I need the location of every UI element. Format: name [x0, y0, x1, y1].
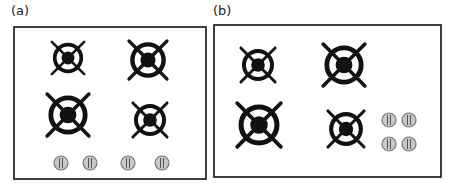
control-knob-icon: [382, 137, 396, 151]
cooktop-panel-a: [14, 27, 206, 179]
control-knob-icon: [402, 113, 416, 127]
control-knob-icon: [121, 156, 135, 170]
cooktop-diagram: [0, 0, 451, 186]
burner-icon: [133, 103, 167, 137]
burner-icon: [328, 111, 364, 147]
burner-icon: [129, 41, 167, 79]
control-knob-icon: [83, 156, 97, 170]
burner-icon: [47, 94, 89, 136]
burner-icon: [52, 42, 84, 74]
control-knob-icon: [402, 137, 416, 151]
cooktop-panel-b: [214, 25, 441, 177]
control-knob-icon: [155, 156, 169, 170]
burner-icon: [323, 44, 365, 86]
burner-icon: [237, 103, 281, 147]
control-knob-icon: [382, 113, 396, 127]
control-knob-icon: [54, 156, 68, 170]
burner-icon: [241, 48, 275, 82]
cooktop-outline: [14, 27, 206, 179]
